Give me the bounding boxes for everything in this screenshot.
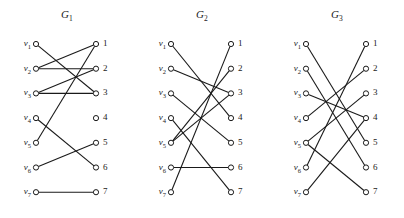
edge-v7-to-4 bbox=[308, 120, 365, 190]
graph-g3: G3 v1v2v3v4v5v6v71234567 bbox=[270, 0, 404, 218]
left-node-v2 bbox=[33, 66, 38, 71]
vertex-label-v4: v4 bbox=[144, 113, 166, 125]
vertex-label-v7: v7 bbox=[9, 187, 31, 199]
right-node-1 bbox=[363, 41, 368, 46]
left-node-v2 bbox=[303, 66, 308, 71]
number-label-3: 3 bbox=[103, 88, 108, 97]
vertex-label-v2: v2 bbox=[9, 64, 31, 76]
right-node-6 bbox=[93, 165, 98, 170]
vertex-label-subscript: 5 bbox=[28, 142, 31, 149]
number-label-2: 2 bbox=[238, 64, 243, 73]
left-node-v4 bbox=[303, 116, 308, 121]
vertex-label-subscript: 1 bbox=[298, 43, 301, 50]
left-node-v3 bbox=[33, 91, 38, 96]
left-node-v3 bbox=[303, 91, 308, 96]
vertex-label-v1: v1 bbox=[279, 39, 301, 51]
graph-g2: G2 v1v2v3v4v5v6v71234567 bbox=[135, 0, 269, 218]
number-label-4: 4 bbox=[103, 113, 108, 122]
number-label-7: 7 bbox=[103, 187, 108, 196]
right-node-4 bbox=[228, 116, 233, 121]
left-node-v6 bbox=[33, 165, 38, 170]
number-label-3: 3 bbox=[238, 88, 243, 97]
vertex-label-v7: v7 bbox=[144, 187, 166, 199]
edge-v2-to-1 bbox=[38, 45, 93, 68]
left-node-v5 bbox=[168, 140, 173, 145]
vertex-label-subscript: 6 bbox=[28, 166, 31, 173]
vertex-label-subscript: 3 bbox=[28, 92, 31, 99]
vertex-label-v3: v3 bbox=[9, 88, 31, 100]
vertex-label-subscript: 1 bbox=[163, 43, 166, 50]
vertex-label-v3: v3 bbox=[144, 88, 166, 100]
graph-title-subscript: 3 bbox=[339, 14, 343, 23]
vertex-label-v6: v6 bbox=[279, 163, 301, 175]
edge-v3-to-2 bbox=[38, 70, 93, 93]
number-label-4: 4 bbox=[373, 113, 378, 122]
vertex-label-subscript: 6 bbox=[298, 166, 301, 173]
left-node-v7 bbox=[168, 190, 173, 195]
vertex-label-subscript: 4 bbox=[163, 117, 166, 124]
right-node-3 bbox=[93, 91, 98, 96]
edge-v6-to-1 bbox=[307, 46, 365, 165]
vertex-label-subscript: 6 bbox=[163, 166, 166, 173]
right-node-1 bbox=[228, 41, 233, 46]
graph-canvas-g2: v1v2v3v4v5v6v71234567 bbox=[135, 36, 269, 206]
graph-title-g2: G2 bbox=[135, 8, 269, 23]
vertex-label-subscript: 4 bbox=[298, 117, 301, 124]
vertex-label-v4: v4 bbox=[279, 113, 301, 125]
graph-title-base: G bbox=[61, 8, 69, 20]
vertex-label-subscript: 4 bbox=[28, 117, 31, 124]
number-label-6: 6 bbox=[238, 163, 243, 172]
left-node-v1 bbox=[303, 41, 308, 46]
graph-g1: G1 v1v2v3v4v5v6v71234567 bbox=[0, 0, 134, 218]
vertex-label-subscript: 3 bbox=[298, 92, 301, 99]
graph-title-g3: G3 bbox=[270, 8, 404, 23]
vertex-label-v6: v6 bbox=[144, 163, 166, 175]
right-node-1 bbox=[93, 41, 98, 46]
vertex-label-v2: v2 bbox=[144, 64, 166, 76]
vertex-label-subscript: 7 bbox=[163, 191, 166, 198]
left-node-v6 bbox=[168, 165, 173, 170]
number-label-2: 2 bbox=[103, 64, 108, 73]
right-node-7 bbox=[228, 190, 233, 195]
edge-v4-to-2 bbox=[308, 70, 364, 116]
number-label-6: 6 bbox=[103, 163, 108, 172]
vertex-label-v6: v6 bbox=[9, 163, 31, 175]
graph-title-subscript: 2 bbox=[204, 14, 208, 23]
graph-canvas-g1: v1v2v3v4v5v6v71234567 bbox=[0, 36, 134, 206]
vertex-label-v5: v5 bbox=[144, 138, 166, 150]
left-node-v7 bbox=[303, 190, 308, 195]
vertex-label-subscript: 2 bbox=[28, 67, 31, 74]
right-node-2 bbox=[363, 66, 368, 71]
number-label-1: 1 bbox=[373, 39, 378, 48]
number-label-6: 6 bbox=[373, 163, 378, 172]
vertex-label-subscript: 5 bbox=[298, 142, 301, 149]
vertex-label-v4: v4 bbox=[9, 113, 31, 125]
graph-canvas-g3: v1v2v3v4v5v6v71234567 bbox=[270, 36, 404, 206]
vertex-label-subscript: 3 bbox=[163, 92, 166, 99]
number-label-7: 7 bbox=[373, 187, 378, 196]
number-label-7: 7 bbox=[238, 187, 243, 196]
vertex-label-v1: v1 bbox=[9, 39, 31, 51]
right-node-4 bbox=[93, 116, 98, 121]
left-node-v6 bbox=[303, 165, 308, 170]
right-node-6 bbox=[228, 165, 233, 170]
vertex-label-subscript: 7 bbox=[298, 191, 301, 198]
right-node-7 bbox=[93, 190, 98, 195]
left-node-v5 bbox=[33, 140, 38, 145]
bipartite-graphs-figure: G1 v1v2v3v4v5v6v71234567 G2 v1v2v3v4v5v6… bbox=[0, 0, 404, 218]
graph-title-base: G bbox=[331, 8, 339, 20]
number-label-2: 2 bbox=[373, 64, 378, 73]
right-node-7 bbox=[363, 190, 368, 195]
number-label-1: 1 bbox=[238, 39, 243, 48]
edge-v6-to-5 bbox=[38, 144, 93, 167]
right-node-2 bbox=[93, 66, 98, 71]
vertex-label-subscript: 7 bbox=[28, 191, 31, 198]
graph-title-base: G bbox=[196, 8, 204, 20]
vertex-label-subscript: 2 bbox=[298, 67, 301, 74]
vertex-label-v5: v5 bbox=[279, 138, 301, 150]
right-node-6 bbox=[363, 165, 368, 170]
vertex-label-subscript: 5 bbox=[163, 142, 166, 149]
number-label-1: 1 bbox=[103, 39, 108, 48]
left-node-v5 bbox=[303, 140, 308, 145]
vertex-label-subscript: 2 bbox=[163, 67, 166, 74]
